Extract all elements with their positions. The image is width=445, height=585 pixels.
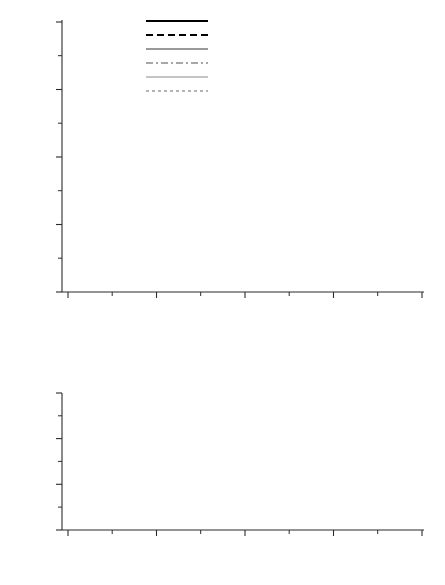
top-x-ticks — [68, 292, 422, 298]
chart-emissions-per-person — [0, 375, 445, 550]
figure-container — [0, 0, 445, 585]
top-chart-svg — [0, 0, 445, 315]
bottom-x-ticks — [68, 530, 422, 536]
top-y-ticks — [56, 22, 62, 292]
bottom-y-ticks — [56, 393, 62, 530]
legend — [146, 21, 208, 91]
chart-total-emissions — [0, 0, 445, 315]
bottom-chart-svg — [0, 375, 445, 550]
